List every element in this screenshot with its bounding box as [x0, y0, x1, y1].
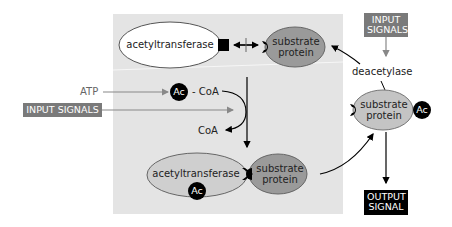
- input-signals-left-box: INPUT SIGNALS: [23, 103, 102, 117]
- acetyl-group-right: Ac: [413, 101, 431, 119]
- bottom-substrate-label: substrate protein: [252, 163, 308, 185]
- bottom-enzyme-label: acetyltransferase: [148, 168, 244, 179]
- deacetylase-label: deacetylase: [352, 66, 412, 77]
- acetyl-group-bottom: Ac: [188, 182, 206, 200]
- top-substrate-label: substrate protein: [268, 36, 324, 58]
- bottom-substrate-line1: substrate: [252, 163, 308, 174]
- acetyl-group-coa: Ac: [170, 83, 188, 101]
- coa-released-label: CoA: [198, 125, 218, 136]
- right-substrate-line1: substrate: [356, 99, 412, 110]
- coa-attached-label: - CoA: [192, 86, 219, 97]
- bottom-substrate-line2: protein: [252, 174, 308, 185]
- top-substrate-line2: protein: [268, 47, 324, 58]
- top-enzyme-label: acetyltransferase: [119, 39, 221, 50]
- output-signal-line2: SIGNAL: [367, 202, 405, 212]
- atp-label: ATP: [80, 86, 98, 97]
- input-signals-top-box: INPUT SIGNALS: [364, 13, 408, 37]
- right-substrate-line2: protein: [356, 110, 412, 121]
- right-substrate-label: substrate protein: [356, 99, 412, 121]
- top-substrate-line1: substrate: [268, 36, 324, 47]
- output-signal-box: OUTPUT SIGNAL: [364, 190, 408, 215]
- input-signals-top-line2: SIGNALS: [367, 25, 405, 35]
